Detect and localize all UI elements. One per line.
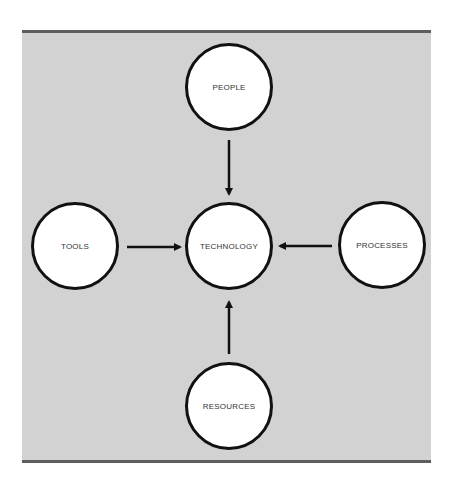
node-label: TOOLS (61, 242, 89, 251)
node-label: PROCESSES (356, 241, 408, 250)
node-resources: RESOURCES (185, 362, 273, 450)
node-tools: TOOLS (31, 202, 119, 290)
node-technology: TECHNOLOGY (185, 202, 273, 290)
node-people: PEOPLE (185, 43, 273, 131)
node-label: TECHNOLOGY (200, 242, 258, 251)
node-label: PEOPLE (212, 83, 245, 92)
node-processes: PROCESSES (338, 201, 426, 289)
node-label: RESOURCES (203, 402, 255, 411)
